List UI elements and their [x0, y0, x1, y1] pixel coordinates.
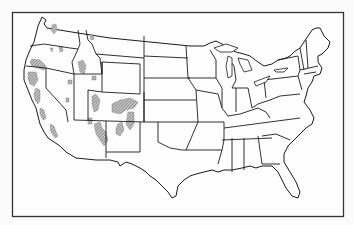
map-svg — [0, 0, 354, 225]
us-map-figure — [0, 0, 354, 225]
